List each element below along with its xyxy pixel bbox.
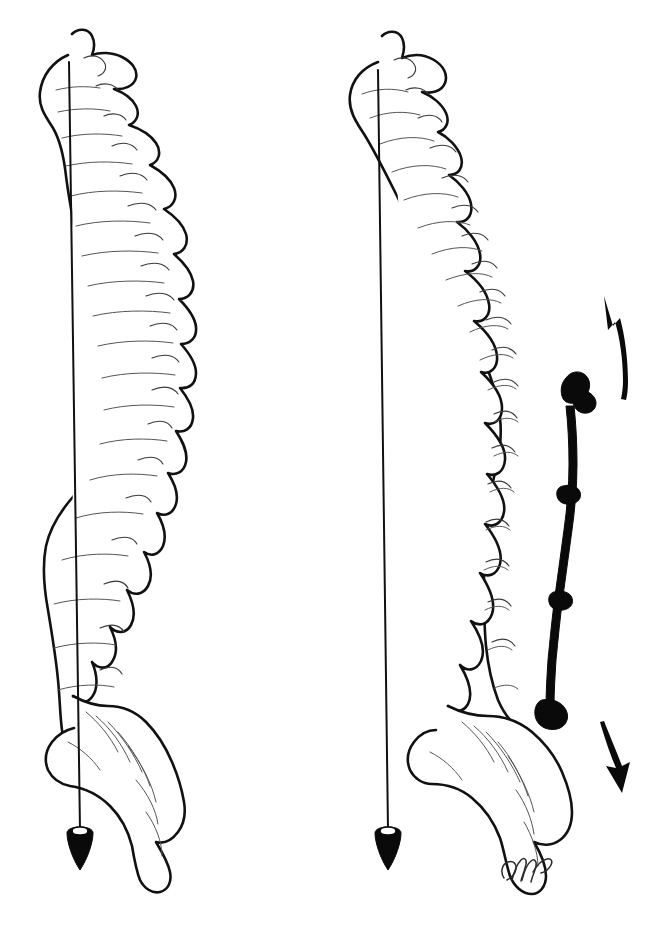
spine-illustration-canvas — [0, 0, 661, 930]
illustration-root — [0, 0, 661, 930]
